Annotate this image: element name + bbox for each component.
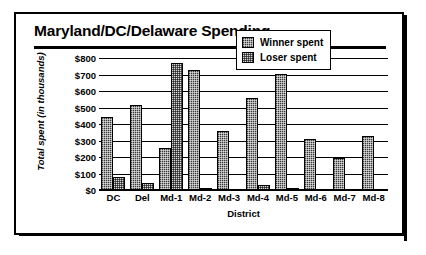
y-axis-tick-label: $200 xyxy=(75,152,96,163)
bar-group xyxy=(99,58,128,190)
x-axis-tick-label: DC xyxy=(99,192,128,203)
winner-bar[interactable] xyxy=(101,117,113,190)
y-axis-tick-label: $600 xyxy=(75,86,96,97)
x-axis-tick-label: Md-4 xyxy=(244,192,273,203)
x-axis-tick-label: Md-2 xyxy=(186,192,215,203)
bar-groups xyxy=(99,58,388,190)
winner-bar[interactable] xyxy=(362,136,374,190)
x-axis-tick-label: Md-1 xyxy=(157,192,186,203)
x-axis-tick-label: Del xyxy=(128,192,157,203)
y-axis-tick-label: $300 xyxy=(75,135,96,146)
bar-group xyxy=(215,58,244,190)
y-axis-tick-labels: $800$700$600$500$400$300$200$100$0 xyxy=(46,58,96,190)
x-axis-tick-label: Md-8 xyxy=(359,192,388,203)
bar-group xyxy=(359,58,388,190)
x-axis-tick-labels: DCDelMd-1Md-2Md-3Md-4Md-5Md-6Md-7Md-8 xyxy=(99,192,388,203)
chart-legend: Winner spentLoser spent xyxy=(236,30,331,70)
x-axis-tick-label: Md-7 xyxy=(330,192,359,203)
title-underline-rule xyxy=(34,46,386,49)
winner-bar[interactable] xyxy=(159,148,171,190)
y-axis-tick-label: $100 xyxy=(75,168,96,179)
y-axis-title: Total spent (in thousands) xyxy=(35,47,46,177)
x-axis-tick-label: Md-6 xyxy=(301,192,330,203)
bar-group xyxy=(330,58,359,190)
winner-bar[interactable] xyxy=(333,158,345,190)
y-axis-tick-label: $700 xyxy=(75,69,96,80)
x-axis-title: District xyxy=(99,208,388,219)
y-axis-tick-label: $400 xyxy=(75,119,96,130)
chart-title: Maryland/DC/Delaware Spending xyxy=(34,22,270,40)
y-axis-tick-label: $800 xyxy=(75,53,96,64)
winner-bar[interactable] xyxy=(304,139,316,190)
y-axis-tick-label: $500 xyxy=(75,102,96,113)
y-axis-tick-label: $0 xyxy=(85,185,96,196)
loser-swatch-icon xyxy=(242,52,254,63)
winner-bar[interactable] xyxy=(130,105,142,190)
winner-bar[interactable] xyxy=(217,131,229,190)
legend-entry[interactable]: Winner spent xyxy=(242,35,323,50)
chart-frame: Maryland/DC/Delaware Spending Total spen… xyxy=(14,12,404,235)
winner-bar[interactable] xyxy=(188,70,200,190)
x-axis-line xyxy=(99,189,388,191)
bar-group xyxy=(186,58,215,190)
plot-area xyxy=(99,58,388,190)
legend-label: Loser spent xyxy=(260,52,317,63)
winner-swatch-icon xyxy=(242,37,254,48)
frame-drop-shadow xyxy=(404,15,407,241)
loser-bar[interactable] xyxy=(171,63,183,190)
bar-group xyxy=(128,58,157,190)
winner-bar[interactable] xyxy=(275,74,287,190)
winner-bar[interactable] xyxy=(246,98,258,190)
bar-group xyxy=(272,58,301,190)
x-axis-tick-label: Md-5 xyxy=(272,192,301,203)
bar-group xyxy=(157,58,186,190)
x-axis-tick-label: Md-3 xyxy=(215,192,244,203)
bar-group xyxy=(301,58,330,190)
bar-group xyxy=(244,58,273,190)
legend-entry[interactable]: Loser spent xyxy=(242,50,323,65)
legend-label: Winner spent xyxy=(260,37,323,48)
